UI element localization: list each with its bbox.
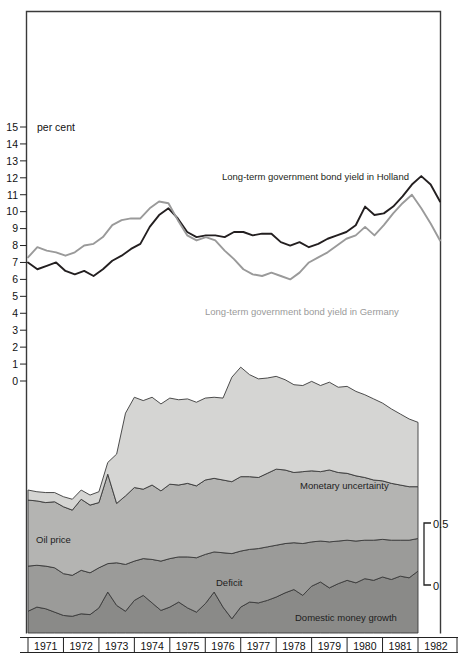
right-scale-bracket <box>424 523 431 585</box>
axis-tick-label-7: 7 <box>12 256 18 268</box>
chart-canvas: 1514131211109876543210per cent1971197219… <box>0 0 458 657</box>
year-label-1981: 1981 <box>389 640 413 652</box>
axis-tick-label-8: 8 <box>12 239 18 251</box>
axis-tick-label-9: 9 <box>12 222 18 234</box>
axis-tick-label-3: 3 <box>12 324 18 336</box>
band-label-oil-price: Oil price <box>36 534 71 545</box>
x-axis: 1971197219731974197519761977197819791980… <box>28 638 457 652</box>
year-label-1976: 1976 <box>211 640 235 652</box>
axis-tick-label-10: 10 <box>6 205 18 217</box>
series-label-germany: Long-term government bond yield in Germa… <box>205 306 399 317</box>
year-label-1974: 1974 <box>140 640 164 652</box>
axis-tick-label-1: 1 <box>12 358 18 370</box>
axis-tick-label-15: 15 <box>6 121 18 133</box>
year-label-1971: 1971 <box>34 640 58 652</box>
stacked-area-chart <box>28 367 418 633</box>
axis-tick-label-12: 12 <box>6 172 18 184</box>
year-label-1979: 1979 <box>318 640 342 652</box>
year-label-1982: 1982 <box>424 640 448 652</box>
axis-tick-label-4: 4 <box>12 307 18 319</box>
year-label-1975: 1975 <box>176 640 200 652</box>
series-label-holland: Long-term government bond yield in Holla… <box>222 171 409 182</box>
band-label-domestic-money-growth: Domestic money growth <box>295 612 397 623</box>
band-label-deficit: Deficit <box>216 577 243 588</box>
axis-tick-label-6: 6 <box>12 273 18 285</box>
right-scale-label-bottom: 0 <box>433 580 439 592</box>
axis-tick-label-2: 2 <box>12 341 18 353</box>
band-label-monetary-uncertainty: Monetary uncertainty <box>300 480 389 491</box>
axis-tick-label-14: 14 <box>6 138 18 150</box>
axis-tick-label-11: 11 <box>7 189 18 201</box>
line-series-group <box>28 176 440 279</box>
left-axis: 1514131211109876543210 <box>6 121 26 387</box>
line-series-germany <box>28 195 440 280</box>
right-scale-label-top: 0.5 <box>433 518 448 530</box>
chart-figure: 1514131211109876543210per cent1971197219… <box>0 0 458 657</box>
y-axis-unit-label: per cent <box>37 121 75 133</box>
year-label-1978: 1978 <box>282 640 306 652</box>
year-label-1973: 1973 <box>105 640 129 652</box>
line-series-holland <box>28 176 440 276</box>
year-label-1977: 1977 <box>247 640 271 652</box>
axis-tick-label-13: 13 <box>6 155 18 167</box>
axis-tick-label-5: 5 <box>12 290 18 302</box>
year-label-1980: 1980 <box>353 640 377 652</box>
year-label-1972: 1972 <box>70 640 94 652</box>
axis-tick-label-0: 0 <box>12 375 18 387</box>
